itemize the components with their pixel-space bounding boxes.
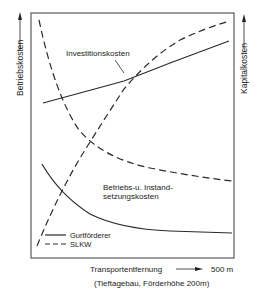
annotation-investitionskosten: Investitionskosten	[66, 49, 130, 58]
annotation-betrieb-line1: Betriebs-u. Instand-	[103, 183, 173, 192]
left-axis-label-group: Betriebskosten	[15, 12, 25, 96]
right-axis-label: Kapitalkosten	[239, 43, 249, 94]
legend-label-slkw: SLKW	[70, 240, 92, 249]
cost-chart: Betriebskosten Kapitalkosten Investition…	[0, 0, 255, 295]
x-axis-label: Transportentfernung	[90, 265, 162, 274]
legend-label-gurtfoerderer: Gurtförderer	[70, 231, 111, 240]
annotation-leader-line	[115, 60, 124, 73]
up-arrow-icon	[242, 14, 246, 22]
series-betrieb-slkw	[39, 20, 232, 181]
right-arrow-icon	[195, 267, 203, 271]
annotation-betrieb-line2: setzungskosten	[103, 192, 159, 201]
legend: Gurtförderer SLKW	[45, 231, 111, 249]
x-axis-end-label: 500 m	[211, 265, 234, 274]
plot-frame	[31, 13, 234, 258]
right-axis-label-group: Kapitalkosten	[239, 14, 249, 94]
up-arrow-icon	[18, 12, 22, 20]
x-axis-caption: (Tieftagebau, Förderhöhe 200m)	[94, 279, 210, 288]
left-axis-label: Betriebskosten	[15, 40, 25, 96]
